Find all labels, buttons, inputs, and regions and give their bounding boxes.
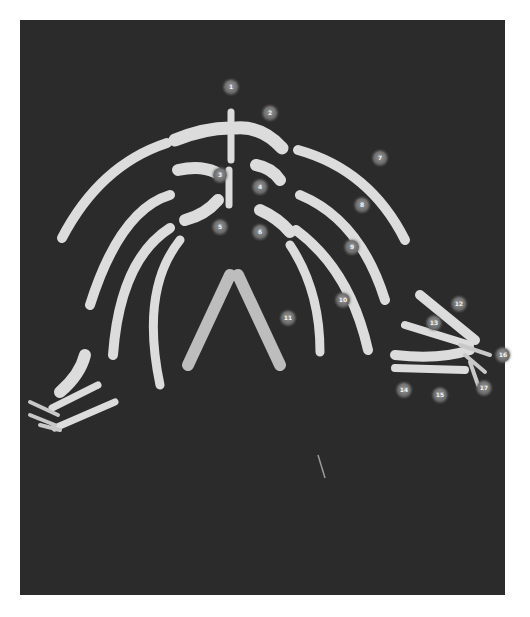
marker-4: 4 (253, 180, 267, 194)
skeleton-drawing (20, 20, 505, 595)
left-rib-4 (153, 240, 180, 385)
left-cartilage-1 (178, 168, 215, 172)
marker-9: 9 (345, 240, 359, 254)
right-rib-4 (290, 245, 320, 352)
marker-16: 16 (496, 348, 510, 362)
left-rib-3 (113, 228, 170, 355)
marker-17: 17 (477, 381, 491, 395)
right-ulna-2 (395, 368, 465, 370)
right-cartilage-1 (256, 165, 280, 180)
marker-6: 6 (253, 225, 267, 239)
right-ulna (395, 350, 470, 357)
small-fragment (318, 455, 325, 478)
marker-5: 5 (213, 220, 227, 234)
marker-2: 2 (263, 106, 277, 120)
marker-13: 13 (427, 316, 441, 330)
marker-10: 10 (336, 293, 350, 307)
marker-15: 15 (433, 388, 447, 402)
specimen-photo: 1234567891011121314151617 (20, 20, 505, 595)
left-rib-1 (62, 143, 167, 238)
marker-1: 1 (224, 80, 238, 94)
marker-7: 7 (373, 151, 387, 165)
xiphoid-left (188, 275, 230, 365)
marker-12: 12 (452, 297, 466, 311)
xiphoid-right (238, 275, 280, 365)
right-clavicle (236, 128, 282, 148)
left-clavicle (175, 128, 230, 140)
left-humerus (60, 355, 85, 392)
marker-11: 11 (281, 311, 295, 325)
marker-14: 14 (397, 383, 411, 397)
marker-3: 3 (213, 168, 227, 182)
marker-8: 8 (355, 198, 369, 212)
left-cartilage-2 (185, 200, 218, 220)
